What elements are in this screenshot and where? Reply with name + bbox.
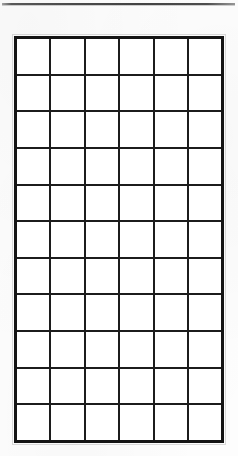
- grid-cell[interactable]: [16, 404, 51, 441]
- grid-cell[interactable]: [188, 185, 223, 222]
- grid-row: [16, 185, 223, 222]
- grid-cell[interactable]: [188, 38, 223, 75]
- grid-body: [16, 38, 223, 442]
- grid-cell[interactable]: [188, 368, 223, 405]
- grid-cell[interactable]: [188, 331, 223, 368]
- grid-row: [16, 258, 223, 295]
- grid-cell[interactable]: [188, 75, 223, 112]
- grid-cell[interactable]: [119, 368, 154, 405]
- grid-cell[interactable]: [85, 148, 120, 185]
- grid-cell[interactable]: [85, 404, 120, 441]
- grid-cell[interactable]: [85, 294, 120, 331]
- grid-cell[interactable]: [188, 148, 223, 185]
- grid-cell[interactable]: [50, 294, 85, 331]
- grid-cell[interactable]: [119, 258, 154, 295]
- grid-cell[interactable]: [154, 221, 189, 258]
- grid-cell[interactable]: [154, 404, 189, 441]
- grid-cell[interactable]: [188, 294, 223, 331]
- grid-cell[interactable]: [16, 221, 51, 258]
- grid-cell[interactable]: [50, 38, 85, 75]
- grid-cell[interactable]: [16, 294, 51, 331]
- grid-cell[interactable]: [154, 148, 189, 185]
- grid-cell[interactable]: [188, 258, 223, 295]
- grid-cell[interactable]: [119, 294, 154, 331]
- grid-cell[interactable]: [16, 75, 51, 112]
- grid-row: [16, 331, 223, 368]
- grid-cell[interactable]: [50, 404, 85, 441]
- grid-cell[interactable]: [16, 331, 51, 368]
- grid-row: [16, 148, 223, 185]
- grid-cell[interactable]: [16, 148, 51, 185]
- grid-cell[interactable]: [50, 331, 85, 368]
- grid-cell[interactable]: [188, 404, 223, 441]
- grid-cell[interactable]: [154, 258, 189, 295]
- grid-cell[interactable]: [50, 148, 85, 185]
- page-sheet: [0, 0, 238, 456]
- grid-cell[interactable]: [16, 258, 51, 295]
- grid-cell[interactable]: [50, 75, 85, 112]
- grid-cell[interactable]: [85, 258, 120, 295]
- grid-cell[interactable]: [85, 111, 120, 148]
- grid-wrapper: [0, 0, 238, 456]
- grid-cell[interactable]: [119, 75, 154, 112]
- grid-cell[interactable]: [50, 111, 85, 148]
- grid-cell[interactable]: [85, 368, 120, 405]
- grid-row: [16, 294, 223, 331]
- grid-cell[interactable]: [50, 368, 85, 405]
- grid-table[interactable]: [14, 36, 224, 443]
- grid-row: [16, 111, 223, 148]
- grid-row: [16, 38, 223, 75]
- grid-cell[interactable]: [119, 38, 154, 75]
- grid-cell[interactable]: [85, 221, 120, 258]
- grid-cell[interactable]: [154, 38, 189, 75]
- grid-cell[interactable]: [119, 221, 154, 258]
- grid-cell[interactable]: [85, 75, 120, 112]
- grid-cell[interactable]: [154, 294, 189, 331]
- grid-cell[interactable]: [50, 185, 85, 222]
- grid-cell[interactable]: [119, 331, 154, 368]
- grid-row: [16, 404, 223, 441]
- grid-cell[interactable]: [119, 185, 154, 222]
- grid-cell[interactable]: [85, 185, 120, 222]
- grid-cell[interactable]: [16, 368, 51, 405]
- grid-cell[interactable]: [119, 148, 154, 185]
- grid-cell[interactable]: [188, 221, 223, 258]
- grid-cell[interactable]: [188, 111, 223, 148]
- grid-cell[interactable]: [154, 331, 189, 368]
- grid-cell[interactable]: [85, 38, 120, 75]
- grid-cell[interactable]: [50, 221, 85, 258]
- grid-cell[interactable]: [16, 185, 51, 222]
- grid-cell[interactable]: [154, 368, 189, 405]
- grid-cell[interactable]: [85, 331, 120, 368]
- grid-cell[interactable]: [50, 258, 85, 295]
- grid-cell[interactable]: [16, 38, 51, 75]
- grid-cell[interactable]: [154, 185, 189, 222]
- grid-cell[interactable]: [154, 75, 189, 112]
- grid-cell[interactable]: [119, 111, 154, 148]
- grid-row: [16, 221, 223, 258]
- grid-cell[interactable]: [16, 111, 51, 148]
- grid-row: [16, 75, 223, 112]
- grid-cell[interactable]: [154, 111, 189, 148]
- grid-cell[interactable]: [119, 404, 154, 441]
- grid-row: [16, 368, 223, 405]
